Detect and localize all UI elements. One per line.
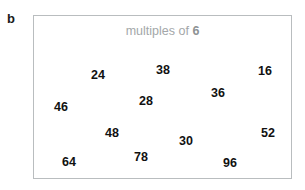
number-item[interactable]: 52 — [261, 127, 275, 140]
box-title-prefix: multiples of — [126, 24, 193, 38]
number-item[interactable]: 64 — [62, 156, 76, 169]
number-box: multiples of 6 243816462836483052647896 — [33, 15, 292, 179]
part-label: b — [7, 12, 15, 25]
number-item[interactable]: 38 — [156, 64, 170, 77]
number-item[interactable]: 28 — [139, 95, 153, 108]
box-title: multiples of 6 — [34, 25, 291, 38]
box-title-value: 6 — [192, 24, 199, 38]
number-item[interactable]: 24 — [91, 69, 105, 82]
number-item[interactable]: 16 — [258, 65, 272, 78]
number-item[interactable]: 30 — [179, 135, 193, 148]
number-item[interactable]: 96 — [223, 157, 237, 170]
number-item[interactable]: 48 — [105, 127, 119, 140]
number-item[interactable]: 36 — [211, 87, 225, 100]
number-item[interactable]: 78 — [134, 151, 148, 164]
number-item[interactable]: 46 — [54, 101, 68, 114]
